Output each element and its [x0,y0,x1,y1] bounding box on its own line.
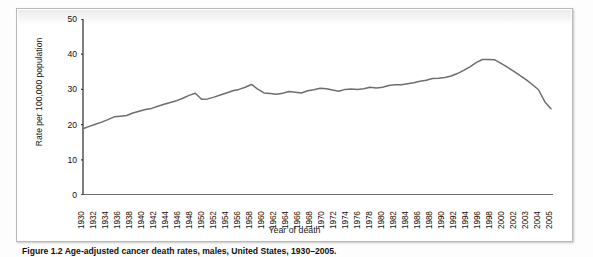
y-axis-title: Rate per 100,000 population [34,17,44,167]
y-axis-tick-label: 40 [55,49,77,59]
x-axis-tick-labels: 1930193219341936193819401942194419461948… [81,199,553,243]
cancer-death-rate-line [83,59,551,128]
figure-container: Rate per 100,000 population 01020304050 … [0,0,593,257]
line-chart-svg [81,19,553,195]
y-axis-tick-label: 30 [55,84,77,94]
y-axis-tick-label: 10 [55,155,77,165]
plot-area [81,19,553,195]
y-axis-tick-labels: 01020304050 [53,19,77,195]
x-axis-title: Year of death [17,225,572,235]
figure-caption: Figure 1.2 Age-adjusted cancer death rat… [22,246,582,257]
axes-group [81,19,553,195]
y-axis-tick-label: 50 [55,14,77,24]
chart-frame: Rate per 100,000 population 01020304050 … [16,8,573,242]
y-axis-tick-label: 20 [55,120,77,130]
y-axis-tick-label: 0 [55,190,77,200]
